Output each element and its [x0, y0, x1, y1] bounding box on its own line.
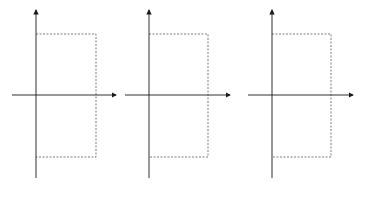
dashed-box [36, 34, 96, 157]
panel-5-2-cusp [125, 10, 230, 178]
dashed-box [272, 34, 331, 157]
panel-cusp [12, 10, 116, 178]
panel-cusp-and-5-2-cusp [248, 10, 353, 178]
dashed-box [149, 34, 208, 157]
cusp-figure [0, 0, 371, 211]
